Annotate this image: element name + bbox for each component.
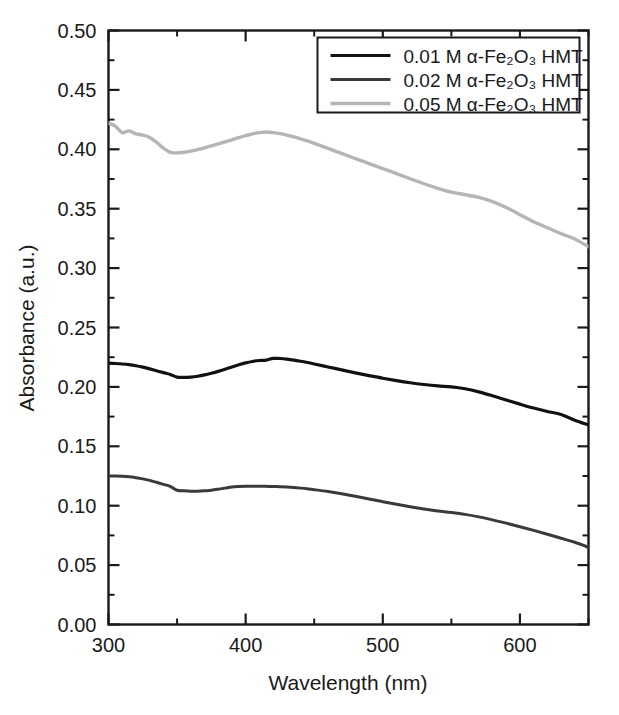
x-tick-label: 400 (229, 634, 262, 656)
x-tick-label: 600 (503, 634, 536, 656)
x-tick-label: 500 (366, 634, 399, 656)
y-tick-label: 0.35 (58, 198, 97, 220)
y-tick-label: 0.40 (58, 138, 97, 160)
y-tick-label: 0.15 (58, 435, 97, 457)
y-tick-label: 0.10 (58, 495, 97, 517)
legend-label-1: 0.01 M α-Fe₂O₃ HMT (404, 46, 584, 67)
chart-legend: 0.01 M α-Fe₂O₃ HMT0.02 M α-Fe₂O₃ HMT0.05… (318, 38, 584, 115)
absorbance-spectrum-chart: 300400500600 0.000.050.100.150.200.250.3… (0, 0, 619, 715)
legend-label-2: 0.02 M α-Fe₂O₃ HMT (404, 70, 584, 91)
y-tick-label: 0.20 (58, 376, 97, 398)
chart-figure: 300400500600 0.000.050.100.150.200.250.3… (0, 0, 619, 715)
y-tick-label: 0.45 (58, 79, 97, 101)
y-axis-title: Absorbance (a.u.) (15, 245, 38, 412)
legend-label-3: 0.05 M α-Fe₂O₃ HMT (404, 94, 584, 115)
y-tick-label: 0.05 (58, 554, 97, 576)
y-tick-label: 0.30 (58, 257, 97, 279)
y-tick-label: 0.00 (58, 614, 97, 636)
y-tick-label: 0.25 (58, 317, 97, 339)
x-axis-title: Wavelength (nm) (268, 671, 427, 694)
y-tick-label: 0.50 (58, 20, 97, 42)
x-tick-label: 300 (92, 634, 125, 656)
